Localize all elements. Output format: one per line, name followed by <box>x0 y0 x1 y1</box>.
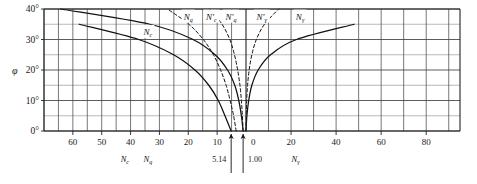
y-axis-title-phi: φ <box>12 65 18 76</box>
bearing-capacity-factors-chart: NcNqN'cN'qN'γNγ0°10°20°30°40°φ6050403020… <box>0 0 477 184</box>
axis-name-ngamma: Nγ <box>291 154 301 165</box>
label-layer: NcNqN'cN'qN'γNγ0°10°20°30°40°φ6050403020… <box>12 4 431 165</box>
x-tick-label-left: 30 <box>155 137 165 147</box>
curve-N-gamma <box>246 24 354 131</box>
x-tick-label-right: 20 <box>287 137 297 147</box>
x-tick-label-left: 40 <box>126 137 136 147</box>
y-tick-label: 30° <box>26 35 40 45</box>
y-tick-label: 0° <box>30 126 39 136</box>
x-tick-label-left: 20 <box>184 137 194 147</box>
axis-name-nq: Nq <box>143 154 153 165</box>
annotation-value-5-14: 5.14 <box>212 155 226 164</box>
x-tick-label-left: 50 <box>97 137 107 147</box>
chart-figure: NcNqN'cN'qN'γNγ0°10°20°30°40°φ6050403020… <box>0 0 477 184</box>
y-tick-label: 20° <box>26 65 40 75</box>
x-tick-label-right: 40 <box>332 137 342 147</box>
x-tick-label-right: 0 <box>251 137 256 147</box>
grid-layer <box>44 9 460 131</box>
x-tick-label-right: 80 <box>422 137 432 147</box>
x-tick-label-left: 10 <box>213 137 223 147</box>
y-tick-label: 40° <box>26 4 40 14</box>
x-tick-label-right: 60 <box>377 137 387 147</box>
annotation-value-1-00: 1.00 <box>248 155 262 164</box>
axis-name-nc: Nc <box>120 154 130 165</box>
x-tick-label-left: 60 <box>68 137 78 147</box>
y-tick-label: 10° <box>26 96 40 106</box>
